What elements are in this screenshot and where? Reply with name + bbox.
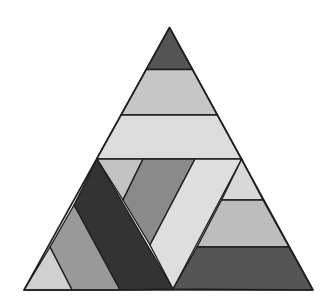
dissected-triangle-figure [0, 0, 335, 305]
triangle-svg [0, 0, 335, 305]
piece-band-3 [97, 115, 242, 159]
piece-right-dark-trapezoid [173, 247, 313, 290]
piece-top-triangle [146, 28, 192, 70]
piece-band-2 [121, 70, 218, 116]
triangle-pieces [24, 28, 313, 291]
